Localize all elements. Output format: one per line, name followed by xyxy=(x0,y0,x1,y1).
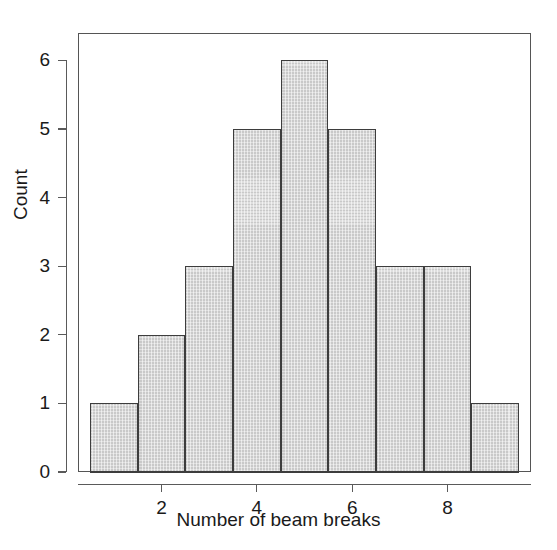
y-axis-tick-label: 1 xyxy=(10,393,50,412)
x-axis-tick xyxy=(447,484,448,492)
y-axis-tick xyxy=(58,128,66,129)
x-axis-tick xyxy=(161,484,162,492)
y-axis-tick-label: 5 xyxy=(10,119,50,138)
histogram-bar xyxy=(233,129,281,472)
y-axis-tick xyxy=(58,60,66,61)
x-axis-tick xyxy=(256,484,257,492)
y-axis-tick xyxy=(58,471,66,472)
bars-layer xyxy=(78,33,531,472)
histogram-bar xyxy=(376,266,424,472)
y-axis-tick xyxy=(58,334,66,335)
y-axis-tick xyxy=(58,266,66,267)
y-axis-tick-label: 3 xyxy=(10,256,50,275)
x-axis-title: Number of beam breaks xyxy=(0,509,557,531)
histogram-bar xyxy=(185,266,233,472)
histogram-bar xyxy=(281,60,329,472)
histogram-bar xyxy=(471,403,519,472)
histogram-bar xyxy=(138,335,186,472)
histogram-bar xyxy=(328,129,376,472)
x-axis-line xyxy=(78,484,531,485)
y-axis-line xyxy=(66,60,67,472)
y-axis-tick xyxy=(58,403,66,404)
y-axis-tick xyxy=(58,197,66,198)
histogram-bar xyxy=(90,403,138,472)
axis-baseline xyxy=(90,471,519,473)
y-axis-tick-label: 6 xyxy=(10,50,50,69)
y-axis-tick-label: 0 xyxy=(10,462,50,481)
y-axis-title: Count xyxy=(10,169,32,220)
histogram-bar xyxy=(424,266,472,472)
histogram-figure: 0123456 2468 Count Number of beam breaks xyxy=(0,0,557,550)
y-axis-tick-label: 2 xyxy=(10,325,50,344)
x-axis-tick xyxy=(352,484,353,492)
